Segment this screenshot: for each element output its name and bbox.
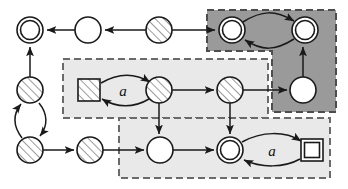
state-top-hatched[interactable] (146, 17, 172, 43)
diagram-canvas: a a (0, 0, 348, 189)
accepting-state-dark-left[interactable] (219, 17, 245, 43)
edge-left-upper-to-lower (39, 103, 46, 136)
transition-label-a-bottom: a (268, 143, 276, 159)
state-middle-hatched-right[interactable] (217, 77, 243, 103)
final-square-white[interactable] (301, 139, 323, 161)
edge-left-lower-to-upper (15, 104, 22, 138)
state-top-white[interactable] (75, 17, 101, 43)
state-bottom-white[interactable] (147, 137, 173, 163)
state-left-lower-hatched[interactable] (17, 137, 43, 163)
state-bottom-hatched[interactable] (77, 137, 103, 163)
accepting-state-bottom[interactable] (217, 137, 243, 163)
state-left-upper-hatched[interactable] (17, 77, 43, 103)
transition-label-a-middle: a (119, 83, 127, 99)
accepting-state-dark-right[interactable] (292, 17, 318, 43)
state-middle-hatched-left[interactable] (146, 77, 172, 103)
start-square-hatched[interactable] (78, 79, 100, 101)
state-dark-bottom-white[interactable] (290, 77, 316, 103)
state-diagram-svg: a a (0, 0, 348, 189)
accepting-state-top-left[interactable] (17, 17, 43, 43)
